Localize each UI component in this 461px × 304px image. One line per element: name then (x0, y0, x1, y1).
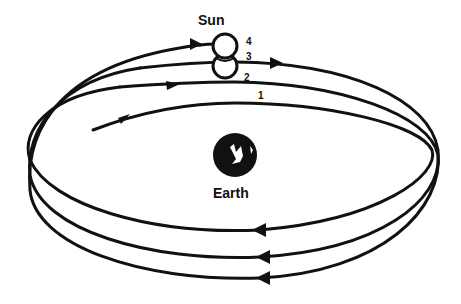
direction-arrow-icon (256, 271, 270, 285)
position-label-3: 3 (246, 51, 252, 62)
position-label-2: 2 (244, 72, 250, 83)
direction-arrow-icon (190, 38, 202, 50)
earth-globe-icon (213, 133, 257, 177)
sun-label: Sun (198, 12, 224, 28)
direction-arrow-icon (270, 57, 283, 69)
sun-path-spiral-diagram: Sun Earth 1 2 3 4 (0, 0, 461, 304)
position-label-4: 4 (246, 36, 252, 47)
position-label-1: 1 (258, 90, 264, 101)
direction-arrow-icon (256, 250, 270, 264)
earth-label: Earth (213, 185, 249, 201)
sun-circle-icon (213, 34, 237, 78)
direction-arrow-icon (252, 223, 266, 237)
